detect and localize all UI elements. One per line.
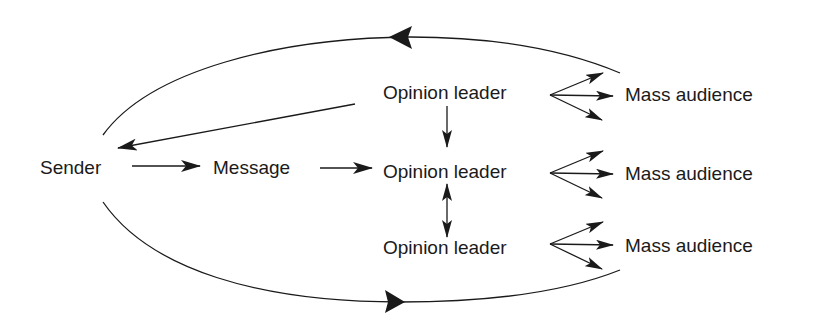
node-mass-audience-2: Mass audience bbox=[625, 163, 753, 184]
node-opinion-leader-3: Opinion leader bbox=[383, 237, 507, 258]
node-mass-audience-3: Mass audience bbox=[625, 235, 753, 256]
node-opinion-leader-2: Opinion leader bbox=[383, 161, 507, 182]
feedback-arc-top bbox=[103, 26, 620, 135]
node-message: Message bbox=[213, 157, 290, 178]
node-mass-audience-1: Mass audience bbox=[625, 84, 753, 105]
node-opinion-leader-1: Opinion leader bbox=[383, 82, 507, 103]
arc-bottom-arrowhead-icon bbox=[385, 290, 405, 313]
communication-flow-diagram: Sender Message Opinion leader Opinion le… bbox=[0, 0, 820, 336]
fan-out-arrows-3 bbox=[550, 222, 613, 269]
fan-out-arrows-1 bbox=[550, 73, 613, 120]
node-sender: Sender bbox=[40, 157, 102, 178]
fan-out-arrows-2 bbox=[550, 151, 613, 198]
arrow-leader-to-sender bbox=[118, 104, 355, 148]
arc-bottom bbox=[103, 202, 620, 313]
